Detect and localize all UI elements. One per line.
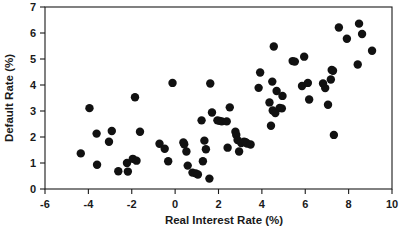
- data-point: [131, 93, 139, 101]
- data-point: [327, 75, 335, 83]
- data-point: [161, 145, 169, 153]
- data-point: [197, 116, 205, 124]
- data-point: [226, 103, 234, 111]
- data-point: [200, 136, 208, 144]
- y-tick-label: 2: [30, 131, 36, 143]
- x-tick-label: 4: [259, 198, 266, 210]
- x-tick-label: 6: [302, 198, 308, 210]
- y-tick-label: 6: [30, 27, 36, 39]
- data-point: [324, 101, 332, 109]
- data-point: [105, 137, 113, 145]
- data-point: [321, 84, 329, 92]
- data-point: [114, 167, 122, 175]
- data-point: [182, 147, 190, 155]
- x-tick-label: 10: [386, 198, 398, 210]
- data-point: [267, 122, 275, 130]
- data-point: [132, 156, 140, 164]
- data-point: [278, 104, 286, 112]
- data-points-layer: [77, 19, 377, 182]
- y-tick-label: 5: [30, 53, 36, 65]
- data-point: [205, 174, 213, 182]
- y-tick-label: 4: [30, 79, 37, 91]
- data-point: [268, 77, 276, 85]
- x-tick-label: 8: [346, 198, 352, 210]
- x-tick-label: -4: [83, 198, 94, 210]
- data-point: [355, 19, 363, 27]
- data-point: [305, 95, 313, 103]
- data-point: [300, 52, 308, 60]
- data-point: [368, 46, 376, 54]
- data-point: [254, 84, 262, 92]
- y-tick-label: 1: [30, 157, 36, 169]
- data-point: [184, 161, 192, 169]
- data-point: [354, 60, 362, 68]
- x-tick-label: 0: [172, 198, 178, 210]
- x-tick-label: 2: [215, 198, 221, 210]
- scatter-plot-figure: -6-4-20246810 01234567 Real Interest Rat…: [0, 0, 404, 230]
- x-axis-title: Real Interest Rate (%): [165, 214, 283, 226]
- data-point: [93, 161, 101, 169]
- data-point: [164, 157, 172, 165]
- data-point: [85, 104, 93, 112]
- data-point: [208, 108, 216, 116]
- data-point: [265, 98, 273, 106]
- data-point: [343, 35, 351, 43]
- data-point: [256, 68, 264, 76]
- data-point: [180, 140, 188, 148]
- data-point: [291, 57, 299, 65]
- data-point: [329, 67, 337, 75]
- x-tick-label: -6: [40, 198, 50, 210]
- data-point: [223, 143, 231, 151]
- data-point: [124, 167, 132, 175]
- data-point: [358, 30, 366, 38]
- data-point: [168, 79, 176, 87]
- plot-canvas: -6-4-20246810 01234567 Real Interest Rat…: [0, 0, 404, 230]
- data-point: [206, 79, 214, 87]
- data-point: [77, 149, 85, 157]
- x-axis-tick-labels: -6-4-20246810: [40, 198, 398, 210]
- y-axis-ticks: [40, 7, 45, 189]
- data-point: [335, 23, 343, 31]
- data-point: [246, 140, 254, 148]
- data-point: [194, 170, 202, 178]
- data-point: [136, 128, 144, 136]
- data-point: [202, 145, 210, 153]
- y-tick-label: 0: [30, 183, 36, 195]
- data-point: [223, 117, 231, 125]
- data-point: [108, 127, 116, 135]
- y-axis-tick-labels: 01234567: [30, 1, 37, 195]
- data-point: [92, 129, 100, 137]
- data-point: [199, 157, 207, 165]
- data-point: [235, 147, 243, 155]
- data-point: [304, 79, 312, 87]
- y-axis-title: Default Rate (%): [3, 54, 15, 142]
- data-point: [270, 42, 278, 50]
- data-point: [330, 131, 338, 139]
- y-tick-label: 7: [30, 1, 36, 13]
- x-axis-ticks: [45, 189, 392, 194]
- x-tick-label: -2: [127, 198, 137, 210]
- y-tick-label: 3: [30, 105, 36, 117]
- data-point: [278, 92, 286, 100]
